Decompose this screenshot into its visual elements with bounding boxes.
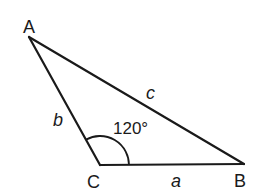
angle-label-c: 120° [113,119,148,138]
vertex-label-c: C [87,172,100,192]
side-label-c: c [146,83,155,103]
triangle-diagram: A B C a b c 120° [0,0,259,194]
side-c-line [29,37,244,164]
side-label-b: b [53,110,63,130]
vertex-label-a: A [23,17,35,37]
side-a-line [100,164,244,165]
vertex-label-b: B [234,171,246,191]
side-label-a: a [171,171,181,191]
side-b-line [29,37,100,165]
